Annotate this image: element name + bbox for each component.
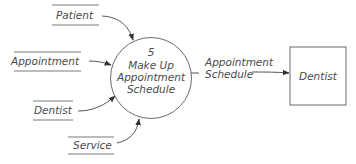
data-store-patient[interactable]: Patient (52, 5, 99, 25)
flow-arrow-dentist[interactable] (78, 96, 115, 111)
data-store-label: Appointment (10, 55, 80, 67)
data-store-service[interactable]: Service (68, 137, 114, 154)
output-flow-appointment-schedule[interactable]: Appointment Schedule (191, 56, 289, 80)
data-flow-diagram: Patient Appointment Dentist Service 5 Ma… (0, 0, 356, 164)
flow-arrow-appointment[interactable] (89, 61, 111, 65)
external-entity-dentist[interactable]: Dentist (290, 47, 346, 105)
data-store-dentist[interactable]: Dentist (33, 101, 73, 120)
data-store-label: Service (73, 139, 112, 151)
data-store-appointment[interactable]: Appointment (10, 52, 81, 71)
flow-arrow-service[interactable] (117, 119, 139, 143)
flow-label-line2: Schedule (205, 68, 253, 80)
data-store-label: Patient (56, 9, 94, 21)
process-label-line1: Make Up (128, 59, 174, 71)
process-number: 5 (148, 46, 155, 58)
data-store-label: Dentist (34, 104, 73, 116)
flow-arrow-patient[interactable] (102, 16, 133, 40)
process-label-line3: Schedule (127, 83, 175, 95)
process-label-line2: Appointment (116, 71, 186, 83)
external-entity-label: Dentist (299, 70, 338, 82)
flow-arrow-to-dentist (252, 72, 289, 73)
flow-label-line1: Appointment (204, 56, 274, 68)
process-5-make-up-appointment-schedule[interactable]: 5 Make Up Appointment Schedule (111, 38, 192, 119)
